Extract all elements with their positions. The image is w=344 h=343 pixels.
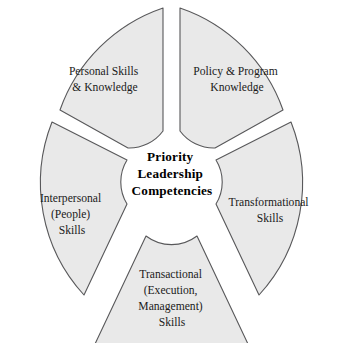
segment-label-line-2: (Execution, [144,284,198,297]
segment-label-line-1: Policy & Program [193,65,277,78]
segment-label-line-1: Personal Skills [69,65,139,78]
competency-wheel-diagram: Personal Skills & Knowledge Policy & Pro… [0,0,344,343]
segment-label-line-3: Management) [138,300,203,313]
segment-shape-policy-program-knowledge[interactable] [180,8,283,148]
segment-label-line-1: Transactional [139,268,202,281]
segment-shape-personal-skills-knowledge[interactable] [60,8,163,148]
segment-label-line-2: Skills [257,212,284,225]
segment-label-line-2: (People) [51,208,90,221]
center-label-text: Priority Leadership Competencies [132,149,213,198]
segment-transformational-skills[interactable]: Transformational Skills [216,122,311,295]
segment-personal-skills-knowledge[interactable]: Personal Skills & Knowledge [60,8,163,148]
center-label-line-1: Priority [147,149,193,164]
segment-policy-program-knowledge[interactable]: Policy & Program Knowledge [180,8,283,148]
segment-interpersonal-people-skills[interactable]: Interpersonal (People) Skills [40,122,127,295]
segment-label-line-1: Transformational [229,196,309,209]
segment-label-line-1: Interpersonal [40,192,101,205]
segment-label-line-2: & Knowledge [72,81,137,94]
segment-label-line-3: Skills [59,224,86,237]
segment-label-line-2: Knowledge [210,81,263,94]
center-label-line-2: Leadership [137,166,203,181]
segment-transactional-skills[interactable]: Transactional (Execution, Management) Sk… [95,236,248,343]
center-label-group: Priority Leadership Competencies [132,149,213,198]
center-label-line-3: Competencies [132,183,213,198]
wheel-svg: Personal Skills & Knowledge Policy & Pro… [0,0,344,343]
segment-label-line-4: Skills [159,316,186,329]
